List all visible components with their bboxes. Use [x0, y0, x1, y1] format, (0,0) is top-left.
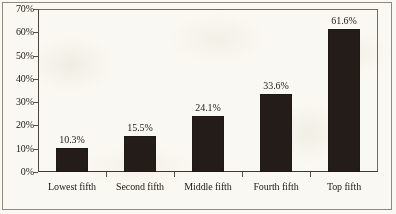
plot-area: 10.3%15.5%24.1%33.6%61.6%: [38, 9, 378, 172]
x-axis-category-label: Middle fifth: [174, 181, 242, 192]
x-axis-category-label: Second fifth: [106, 181, 174, 192]
x-axis-tick-mark: [106, 172, 107, 177]
bar: [56, 148, 88, 172]
x-axis-category-label: Lowest fifth: [38, 181, 106, 192]
bar-value-label: 61.6%: [310, 16, 378, 26]
bar-chart-figure: 0%10%20%30%40%50%60%70% Lowest fifthSeco…: [0, 0, 396, 214]
bar-value-label: 33.6%: [242, 81, 310, 91]
bar: [260, 94, 292, 172]
bar: [328, 29, 360, 172]
x-axis-tick-mark: [242, 172, 243, 177]
bar-value-label: 10.3%: [38, 135, 106, 145]
bar: [124, 136, 156, 172]
x-axis-tick-mark: [174, 172, 175, 177]
bar: [192, 116, 224, 172]
bar-value-label: 15.5%: [106, 123, 174, 133]
x-axis-category-label: Top fifth: [310, 181, 378, 192]
bar-value-label: 24.1%: [174, 103, 242, 113]
x-axis-tick-mark: [310, 172, 311, 177]
x-axis-category-label: Fourth fifth: [242, 181, 310, 192]
